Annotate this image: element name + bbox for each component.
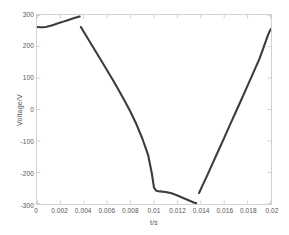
plot-area xyxy=(36,14,272,205)
x-tick-label: 0.012 xyxy=(169,207,186,215)
chart-figure: 3002001000-100-200-300 Voltage/V 00.0020… xyxy=(0,0,289,235)
x-tick-label: 0.002 xyxy=(51,207,68,215)
x-tick-label: 0.018 xyxy=(240,207,257,215)
x-axis-label: t/s xyxy=(36,219,272,226)
x-axis-tick-labels: 00.0020.0040.0060.0080.010.0120.0140.016… xyxy=(36,207,272,217)
x-tick-label: 0.008 xyxy=(122,207,139,215)
x-tick-label: 0.014 xyxy=(193,207,210,215)
x-tick-label: 0.02 xyxy=(265,207,278,215)
x-tick-label: 0.016 xyxy=(216,207,233,215)
x-tick-label: 0.01 xyxy=(147,207,160,215)
x-tick-label: 0.004 xyxy=(75,207,92,215)
y-axis-label-container: Voltage/V xyxy=(14,14,24,205)
x-tick-label: 0.006 xyxy=(98,207,115,215)
x-tick-label: 0 xyxy=(34,207,38,215)
data-line-segment-3 xyxy=(199,29,271,193)
data-line-segment-1 xyxy=(37,17,80,28)
data-line-segment-2 xyxy=(81,27,196,203)
plot-svg xyxy=(37,15,271,204)
y-axis-label: Voltage/V xyxy=(16,94,23,126)
